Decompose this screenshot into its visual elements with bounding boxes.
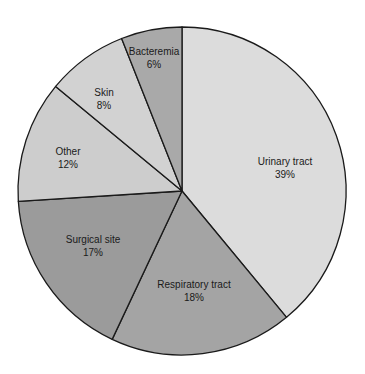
slice-percent: 8% <box>94 99 113 112</box>
slice-percent: 18% <box>157 291 230 304</box>
slice-label-bacteremia: Bacteremia 6% <box>129 45 180 71</box>
slice-name: Other <box>55 145 80 158</box>
slice-percent: 17% <box>66 246 120 259</box>
slice-label-respiratory-tract: Respiratory tract 18% <box>157 278 230 304</box>
slice-name: Respiratory tract <box>157 278 230 291</box>
slice-percent: 12% <box>55 158 80 171</box>
slice-name: Urinary tract <box>258 155 312 168</box>
slice-label-other: Other 12% <box>55 145 80 171</box>
slice-percent: 39% <box>258 168 312 181</box>
pie-chart <box>0 0 365 374</box>
pie-slices <box>18 27 346 355</box>
slice-label-skin: Skin 8% <box>94 86 113 112</box>
slice-label-surgical-site: Surgical site 17% <box>66 233 120 259</box>
slice-name: Skin <box>94 86 113 99</box>
slice-percent: 6% <box>129 58 180 71</box>
slice-name: Bacteremia <box>129 45 180 58</box>
slice-label-urinary-tract: Urinary tract 39% <box>258 155 312 181</box>
slice-name: Surgical site <box>66 233 120 246</box>
